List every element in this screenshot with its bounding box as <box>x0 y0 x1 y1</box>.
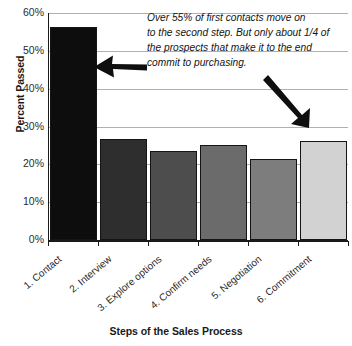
annotation-callout-text: Over 55% of first contacts move onto the… <box>147 10 347 70</box>
y-axis-tick-label: 10% <box>2 195 44 207</box>
x-axis-tick <box>48 241 49 246</box>
y-axis-tick-label: 50% <box>2 44 44 56</box>
arrow-to-last-bar-icon <box>258 70 318 136</box>
y-axis-tick-label: 30% <box>2 120 44 132</box>
y-axis-tick-label: 40% <box>2 82 44 94</box>
x-axis-tick <box>98 241 99 246</box>
bar <box>300 141 347 241</box>
arrow-to-first-bar-icon <box>92 52 148 86</box>
annotation-line: to the second step. But only about 1/4 o… <box>147 25 347 40</box>
bar <box>150 151 197 240</box>
x-axis-tick <box>148 241 149 246</box>
y-axis-tick-label: 60% <box>2 6 44 18</box>
x-axis-title: Steps of the Sales Process <box>0 325 352 337</box>
annotation-line: commit to purchasing. <box>147 55 347 70</box>
x-axis-tick <box>248 241 249 246</box>
annotation-line: the prospects that make it to the end <box>147 40 347 55</box>
x-axis-tick <box>348 241 349 246</box>
x-axis-tick <box>298 241 299 246</box>
y-axis-tick-label: 0% <box>2 233 44 245</box>
bar <box>100 139 147 240</box>
bar <box>50 27 97 240</box>
y-axis-tick-label: 20% <box>2 157 44 169</box>
x-axis-tick <box>198 241 199 246</box>
bar <box>200 145 247 240</box>
y-axis-line <box>48 13 49 242</box>
bar-chart: Percent Passed 0%10%20%30%40%50%60% 1. C… <box>0 0 352 346</box>
bar <box>250 159 297 240</box>
annotation-line: Over 55% of first contacts move on <box>147 10 347 25</box>
